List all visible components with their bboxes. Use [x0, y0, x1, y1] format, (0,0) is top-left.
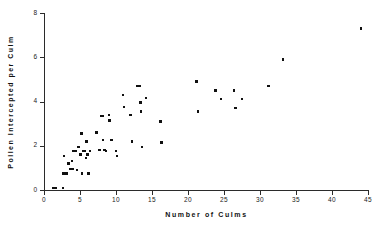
data-point: [360, 27, 362, 29]
y-axis-title: Pollen Intercepted per Culm: [7, 13, 21, 191]
x-tick-label: 0: [32, 196, 56, 203]
data-point: [267, 85, 269, 87]
x-tick-label: 15: [140, 196, 164, 203]
data-point: [241, 98, 243, 100]
data-point: [62, 187, 64, 189]
x-tick-label: 20: [176, 196, 200, 203]
data-point: [233, 89, 235, 91]
data-point: [122, 94, 124, 96]
data-point: [87, 172, 89, 174]
data-point: [115, 150, 117, 152]
data-point: [80, 132, 82, 134]
x-tick-mark: [368, 191, 369, 195]
data-point: [110, 139, 112, 141]
x-tick-mark: [332, 191, 333, 195]
y-tick-mark: [40, 57, 44, 58]
plot-data-area: [44, 13, 368, 190]
x-tick-label: 30: [248, 196, 272, 203]
y-tick-label: 2: [24, 142, 37, 149]
data-point: [160, 141, 162, 143]
x-tick-mark: [80, 191, 81, 195]
data-point: [80, 153, 82, 155]
data-point: [131, 140, 133, 142]
data-point: [101, 115, 103, 117]
data-point: [139, 85, 141, 87]
x-tick-label: 25: [212, 196, 236, 203]
x-tick-mark: [152, 191, 153, 195]
data-point: [108, 114, 110, 116]
data-point: [140, 110, 142, 112]
data-point: [89, 150, 91, 152]
y-tick-mark: [40, 190, 44, 191]
data-point: [65, 172, 67, 174]
y-tick-mark: [40, 146, 44, 147]
data-point: [145, 97, 147, 99]
data-point: [220, 98, 222, 100]
data-point: [85, 157, 87, 159]
x-tick-mark: [44, 191, 45, 195]
y-tick-label: 6: [24, 54, 37, 61]
data-point: [282, 58, 284, 60]
data-point: [195, 80, 197, 82]
data-point: [87, 153, 89, 155]
x-tick-mark: [188, 191, 189, 195]
y-tick-label: 4: [24, 98, 37, 105]
x-axis-title: Number of Culms: [44, 211, 369, 218]
data-point: [77, 146, 79, 148]
data-point: [71, 160, 73, 162]
data-point: [95, 131, 97, 133]
x-tick-mark: [116, 191, 117, 195]
data-point: [102, 139, 104, 141]
data-point: [81, 172, 83, 174]
data-point: [83, 150, 85, 152]
data-point: [123, 106, 125, 108]
data-point: [141, 146, 143, 148]
data-point: [76, 169, 78, 171]
data-point: [214, 89, 216, 91]
x-tick-mark: [296, 191, 297, 195]
y-tick-mark: [40, 102, 44, 103]
y-tick-mark: [40, 13, 44, 14]
data-point: [108, 119, 110, 121]
data-point: [63, 155, 65, 157]
x-tick-label: 10: [104, 196, 128, 203]
data-point: [234, 107, 236, 109]
x-tick-label: 45: [356, 196, 380, 203]
x-tick-mark: [224, 191, 225, 195]
data-point: [129, 114, 131, 116]
y-tick-label: 8: [24, 10, 37, 17]
data-point: [67, 162, 69, 164]
x-tick-label: 35: [284, 196, 308, 203]
data-point: [159, 120, 161, 122]
data-point: [105, 150, 107, 152]
x-tick-label: 40: [320, 196, 344, 203]
x-tick-label: 5: [68, 196, 92, 203]
data-point: [139, 101, 141, 103]
data-point: [197, 110, 199, 112]
y-tick-label: 0: [24, 187, 37, 194]
data-point: [72, 168, 74, 170]
data-point: [85, 140, 87, 142]
data-point: [116, 155, 118, 157]
data-point: [74, 150, 76, 152]
data-point: [98, 149, 100, 151]
scatter-plot-figure: Number of Culms Pollen Intercepted per C…: [0, 0, 392, 232]
data-point: [55, 187, 57, 189]
x-tick-mark: [260, 191, 261, 195]
x-axis-line: [44, 190, 369, 191]
